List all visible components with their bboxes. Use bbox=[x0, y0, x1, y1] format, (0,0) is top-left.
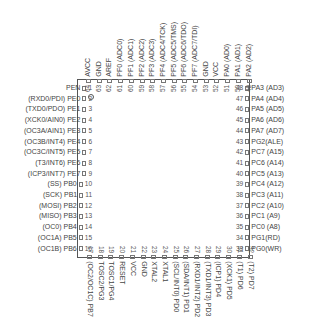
pin-label: GND bbox=[202, 61, 209, 77]
pin-42: 42PC7 (A15) bbox=[236, 148, 284, 156]
pin-20: 20RESET bbox=[118, 246, 126, 285]
pin-16: (OC1B) PB616 bbox=[38, 245, 92, 253]
pin-label: (MOSI) PB2 bbox=[39, 202, 77, 209]
pin-number: 35 bbox=[236, 223, 243, 230]
pin-pad-icon bbox=[214, 79, 219, 83]
pin-43: 43PG2(ALE) bbox=[236, 138, 283, 146]
pin-number: 21 bbox=[130, 246, 137, 253]
pin-pad-icon bbox=[98, 255, 103, 259]
pin-number: 4 bbox=[88, 116, 92, 123]
pin-36: 36PC1 (A9) bbox=[236, 212, 280, 220]
pin-label: (T3/INT6) PE6 bbox=[35, 159, 80, 166]
pin-label: (MISO) PB3 bbox=[39, 212, 77, 219]
pin-number: 42 bbox=[236, 148, 243, 155]
pin-number: 19 bbox=[108, 246, 115, 253]
pin-number: 18 bbox=[98, 246, 105, 253]
pin-label: PA2 (AD2) bbox=[245, 44, 252, 77]
pin-13: (MISO) PB313 bbox=[39, 212, 92, 220]
pin-59: 59PF2 (ADC2) bbox=[138, 39, 146, 92]
pin-number: 45 bbox=[236, 116, 243, 123]
pin-51: 51PA0 (AD0) bbox=[223, 44, 231, 92]
pin-pad-icon bbox=[248, 255, 253, 259]
pin-label: (OC3B/INT4) PE4 bbox=[24, 138, 80, 145]
pin-pad-icon bbox=[79, 203, 83, 208]
pin-number: 34 bbox=[236, 234, 243, 241]
pin-number: 22 bbox=[141, 246, 148, 253]
pin-55: 55PF6 (ADC6/TDO) bbox=[180, 22, 188, 92]
pin-pad-icon bbox=[96, 79, 101, 83]
pin-pad-icon bbox=[216, 255, 221, 259]
pin-number: 43 bbox=[236, 138, 243, 145]
pin-19: 19TOSC1/PG4 bbox=[107, 246, 115, 300]
pin-number: 41 bbox=[236, 159, 243, 166]
pin-label: PEN bbox=[66, 84, 80, 91]
pin-number: 6 bbox=[88, 138, 92, 145]
pin-pad-icon bbox=[245, 214, 249, 219]
pin-label: XTAL1 bbox=[162, 261, 169, 282]
pin-8: (T3/INT6) PE68 bbox=[35, 159, 92, 167]
pin-label: PA3 (AD3) bbox=[251, 84, 284, 91]
pin-number: 28 bbox=[205, 246, 212, 253]
pin-pad-icon bbox=[245, 161, 249, 166]
pin-number: 62 bbox=[105, 85, 112, 92]
pin-number: 3 bbox=[88, 105, 92, 112]
pin-47: 47PA4 (AD4) bbox=[236, 95, 284, 103]
pin-pad-icon bbox=[79, 214, 83, 219]
pin-label: (ICP3/INT7) PE7 bbox=[28, 170, 81, 177]
pin-pad-icon bbox=[225, 79, 230, 83]
pin-number: 38 bbox=[236, 191, 243, 198]
pin-6: (OC3B/INT4) PE46 bbox=[24, 138, 92, 146]
pin-label: (OC3A/AIN1) PE3 bbox=[24, 127, 80, 134]
pin-number: 5 bbox=[88, 127, 92, 134]
pin-pad-icon bbox=[79, 235, 83, 240]
pin-label: PF0 (ADC0) bbox=[116, 39, 123, 77]
pin-label: (T2) PD7 bbox=[248, 261, 255, 289]
pin-label: AVCC bbox=[84, 58, 91, 77]
pin-number: 11 bbox=[85, 191, 92, 198]
pin-pad-icon bbox=[82, 107, 86, 112]
pin-label: (RXD0/PDI) PE0 bbox=[28, 95, 80, 102]
pin-number: 60 bbox=[127, 85, 134, 92]
pin-46: 46PA5 (AD5) bbox=[236, 105, 284, 113]
pin-pad-icon bbox=[161, 79, 166, 83]
pin-label: VCC bbox=[212, 62, 219, 77]
pin-label: (OC3C/INT5) PE5 bbox=[24, 148, 80, 155]
pin-number: 14 bbox=[85, 223, 92, 230]
pin-pad-icon bbox=[182, 79, 187, 83]
pin-50: 50PA1 (AD1) bbox=[234, 44, 242, 92]
pin-label: PF1 (ADC1) bbox=[127, 39, 134, 77]
pin-45: 45PA6 (AD6) bbox=[236, 116, 284, 124]
pin-14: (OC0) PB414 bbox=[43, 223, 92, 231]
pin-pad-icon bbox=[82, 150, 86, 155]
pin-61: 61PF0 (ADC0) bbox=[116, 39, 124, 92]
pin-63: 63GND bbox=[95, 61, 103, 92]
pin-number: 8 bbox=[88, 159, 92, 166]
pin-57: 57PF4 (ADC4/TCK) bbox=[159, 23, 167, 92]
pin-label: PF2 (ADC2) bbox=[138, 39, 145, 77]
pin-9: (ICP3/INT7) PE79 bbox=[28, 170, 92, 178]
pin-number: 55 bbox=[180, 85, 187, 92]
pin-label: (XCK0/AIN0) PE2 bbox=[25, 116, 81, 123]
pin-28: 28(TXD1/INT3) PD3 bbox=[204, 246, 212, 316]
pin-label: (TXD1/INT3) PD3 bbox=[205, 261, 212, 316]
pin-pad-icon bbox=[173, 255, 178, 259]
pin-number: 58 bbox=[148, 85, 155, 92]
pin-pad-icon bbox=[245, 128, 249, 133]
pin-number: 27 bbox=[194, 246, 201, 253]
pin-number: 39 bbox=[236, 180, 243, 187]
pin-label: (OC2/OC1C) PB7 bbox=[87, 261, 94, 317]
pin-number: 31 bbox=[237, 246, 244, 253]
pin-37: 37PC2 (A10) bbox=[236, 202, 284, 210]
pin-number: 64 bbox=[84, 85, 91, 92]
pin-53: 53GND bbox=[202, 61, 210, 92]
pin-pad-icon bbox=[226, 255, 231, 259]
pin-pad-icon bbox=[245, 225, 249, 230]
pin-label: (OC1B) PB6 bbox=[38, 245, 77, 252]
pin-label: GND bbox=[141, 261, 148, 277]
pin-62: 62AREF bbox=[105, 58, 113, 92]
pin-label: AREF bbox=[105, 58, 112, 77]
pin-pad-icon bbox=[237, 255, 242, 259]
pin-pad-icon bbox=[82, 128, 86, 133]
pin-pad-icon bbox=[107, 79, 112, 83]
pin-number: 32 bbox=[248, 246, 255, 253]
